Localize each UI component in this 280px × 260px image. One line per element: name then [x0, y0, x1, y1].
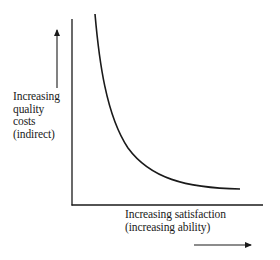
- y-axis-label-line: (indirect): [13, 128, 60, 141]
- y-axis-label-line: costs: [13, 115, 60, 128]
- y-axis-label-line: quality: [13, 103, 60, 116]
- y-axis-label: Increasing quality costs (indirect): [13, 90, 60, 140]
- x-axis-label-line: (increasing ability): [125, 221, 226, 234]
- y-axis-label-line: Increasing: [13, 90, 60, 103]
- x-axis-label-line: Increasing satisfaction: [125, 208, 226, 221]
- x-axis-label: Increasing satisfaction (increasing abil…: [125, 208, 226, 233]
- cost-curve: [95, 14, 240, 189]
